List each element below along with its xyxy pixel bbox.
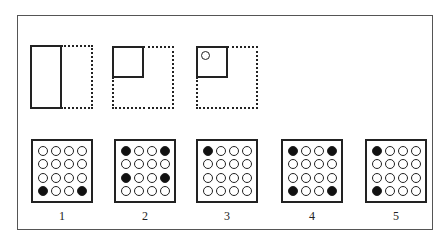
empty-circle-icon bbox=[411, 186, 421, 196]
folded-square bbox=[112, 46, 144, 78]
empty-circle-icon bbox=[64, 159, 74, 169]
empty-circle-icon bbox=[301, 159, 311, 169]
punched-hole-icon bbox=[288, 146, 298, 156]
empty-circle-icon bbox=[64, 146, 74, 156]
punched-hole-icon bbox=[201, 51, 210, 60]
empty-circle-icon bbox=[398, 186, 408, 196]
punched-hole-icon bbox=[77, 186, 87, 196]
empty-circle-icon bbox=[242, 159, 252, 169]
option-label: 1 bbox=[31, 209, 93, 224]
empty-circle-icon bbox=[147, 146, 157, 156]
empty-circle-icon bbox=[301, 186, 311, 196]
empty-circle-icon bbox=[216, 159, 226, 169]
empty-circle-icon bbox=[288, 173, 298, 183]
empty-circle-icon bbox=[229, 186, 239, 196]
empty-circle-icon bbox=[160, 186, 170, 196]
empty-circle-icon bbox=[147, 173, 157, 183]
empty-circle-icon bbox=[203, 159, 213, 169]
empty-circle-icon bbox=[147, 159, 157, 169]
empty-circle-icon bbox=[216, 186, 226, 196]
empty-circle-icon bbox=[242, 146, 252, 156]
punched-hole-icon bbox=[121, 146, 131, 156]
punched-hole-icon bbox=[327, 186, 337, 196]
empty-circle-icon bbox=[77, 173, 87, 183]
empty-circle-icon bbox=[51, 159, 61, 169]
hole-grid bbox=[31, 139, 93, 203]
empty-circle-icon bbox=[242, 173, 252, 183]
empty-circle-icon bbox=[229, 146, 239, 156]
empty-circle-icon bbox=[134, 186, 144, 196]
empty-circle-icon bbox=[411, 159, 421, 169]
unfolded-outline-bottom bbox=[112, 77, 145, 109]
empty-circle-icon bbox=[216, 146, 226, 156]
empty-circle-icon bbox=[77, 146, 87, 156]
empty-circle-icon bbox=[134, 173, 144, 183]
punched-hole-icon bbox=[372, 146, 382, 156]
empty-circle-icon bbox=[38, 173, 48, 183]
empty-circle-icon bbox=[385, 186, 395, 196]
empty-circle-icon bbox=[301, 173, 311, 183]
hole-grid bbox=[196, 139, 258, 203]
punched-hole-icon bbox=[288, 186, 298, 196]
empty-circle-icon bbox=[398, 159, 408, 169]
unfolded-outline-top-right bbox=[143, 46, 174, 109]
empty-circle-icon bbox=[411, 146, 421, 156]
empty-circle-icon bbox=[134, 146, 144, 156]
empty-circle-icon bbox=[51, 186, 61, 196]
empty-circle-icon bbox=[64, 173, 74, 183]
answer-option-5[interactable]: 5 bbox=[365, 139, 427, 224]
punched-hole-icon bbox=[121, 173, 131, 183]
answer-option-3[interactable]: 3 bbox=[196, 139, 258, 224]
empty-circle-icon bbox=[229, 173, 239, 183]
empty-circle-icon bbox=[385, 146, 395, 156]
empty-circle-icon bbox=[203, 186, 213, 196]
empty-circle-icon bbox=[314, 173, 324, 183]
empty-circle-icon bbox=[385, 159, 395, 169]
empty-circle-icon bbox=[398, 173, 408, 183]
empty-circle-icon bbox=[372, 159, 382, 169]
option-label: 3 bbox=[196, 209, 258, 224]
answer-option-1[interactable]: 1 bbox=[31, 139, 93, 224]
empty-circle-icon bbox=[77, 159, 87, 169]
empty-circle-icon bbox=[160, 159, 170, 169]
empty-circle-icon bbox=[314, 159, 324, 169]
empty-circle-icon bbox=[327, 159, 337, 169]
answer-option-4[interactable]: 4 bbox=[281, 139, 343, 224]
empty-circle-icon bbox=[411, 173, 421, 183]
empty-circle-icon bbox=[301, 146, 311, 156]
empty-circle-icon bbox=[38, 146, 48, 156]
empty-circle-icon bbox=[242, 186, 252, 196]
folded-square-punched bbox=[196, 46, 228, 78]
empty-circle-icon bbox=[398, 146, 408, 156]
hole-grid bbox=[114, 139, 176, 203]
hole-grid bbox=[281, 139, 343, 203]
empty-circle-icon bbox=[229, 159, 239, 169]
punched-hole-icon bbox=[160, 146, 170, 156]
option-label: 5 bbox=[365, 209, 427, 224]
unfolded-outline-top-right bbox=[227, 46, 258, 109]
empty-circle-icon bbox=[327, 173, 337, 183]
punched-hole-icon bbox=[327, 146, 337, 156]
option-label: 2 bbox=[114, 209, 176, 224]
hole-grid bbox=[365, 139, 427, 203]
punched-hole-icon bbox=[160, 173, 170, 183]
empty-circle-icon bbox=[64, 186, 74, 196]
empty-circle-icon bbox=[216, 173, 226, 183]
empty-circle-icon bbox=[134, 159, 144, 169]
punched-hole-icon bbox=[372, 186, 382, 196]
punched-hole-icon bbox=[38, 186, 48, 196]
empty-circle-icon bbox=[314, 186, 324, 196]
empty-circle-icon bbox=[147, 186, 157, 196]
empty-circle-icon bbox=[51, 146, 61, 156]
unfolded-outline bbox=[61, 45, 93, 109]
answer-option-2[interactable]: 2 bbox=[114, 139, 176, 224]
punched-hole-icon bbox=[203, 146, 213, 156]
empty-circle-icon bbox=[385, 173, 395, 183]
option-label: 4 bbox=[281, 209, 343, 224]
folded-rectangle bbox=[30, 45, 62, 109]
empty-circle-icon bbox=[288, 159, 298, 169]
empty-circle-icon bbox=[121, 159, 131, 169]
empty-circle-icon bbox=[314, 146, 324, 156]
empty-circle-icon bbox=[121, 186, 131, 196]
empty-circle-icon bbox=[51, 173, 61, 183]
